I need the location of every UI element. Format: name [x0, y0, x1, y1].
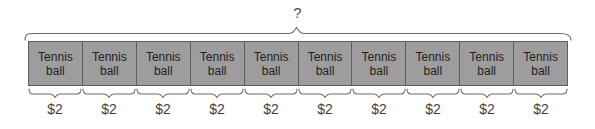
- unit-brace: [83, 89, 135, 98]
- tape-cell: Tennis ball: [137, 42, 191, 85]
- unit-value-label: $2: [190, 100, 244, 120]
- tape-cell-label-line1: Tennis: [415, 50, 450, 64]
- unit-brace: [299, 89, 351, 98]
- tape-cell-label-line1: Tennis: [38, 50, 73, 64]
- unit-brace: [245, 89, 297, 98]
- total-unknown-label: ?: [0, 4, 595, 22]
- unit-brace: [353, 89, 405, 98]
- unit-brace: [407, 89, 459, 98]
- unit-brace: [137, 89, 189, 98]
- unit-value-label: $2: [136, 100, 190, 120]
- unit-brace: [515, 89, 567, 98]
- tape-cell: Tennis ball: [514, 42, 567, 85]
- unit-value-label: $2: [244, 100, 298, 120]
- unit-brace: [191, 89, 243, 98]
- unit-value-label: $2: [460, 100, 514, 120]
- tape-cell: Tennis ball: [352, 42, 406, 85]
- tape-cell: Tennis ball: [299, 42, 353, 85]
- tape-cell: Tennis ball: [245, 42, 299, 85]
- tape-cell-label-line2: ball: [154, 64, 173, 78]
- tape-cell-label-line1: Tennis: [308, 50, 343, 64]
- unit-value-label: $2: [298, 100, 352, 120]
- tape-cell-label-line1: Tennis: [92, 50, 127, 64]
- top-brace: [25, 28, 571, 41]
- tape-cell-label-line2: ball: [46, 64, 65, 78]
- tape-cell-label-line2: ball: [477, 64, 496, 78]
- tape-cell-label-line1: Tennis: [523, 50, 558, 64]
- unit-value-label: $2: [514, 100, 568, 120]
- unit-value-label: $2: [352, 100, 406, 120]
- unit-value-label: $2: [82, 100, 136, 120]
- tape-cell: Tennis ball: [406, 42, 460, 85]
- unit-brace: [461, 89, 513, 98]
- tape-cell-label-line2: ball: [208, 64, 227, 78]
- tape-cell-label-line1: Tennis: [146, 50, 181, 64]
- tape-cell: Tennis ball: [29, 42, 83, 85]
- tape-cell-label-line2: ball: [262, 64, 281, 78]
- tape-cell: Tennis ball: [83, 42, 137, 85]
- tape-cell: Tennis ball: [191, 42, 245, 85]
- unit-value-labels: $2 $2 $2 $2 $2 $2 $2 $2 $2 $2: [28, 100, 568, 120]
- tape-cell: Tennis ball: [460, 42, 514, 85]
- tape-diagram: ? Tennis ball Tennis ball: [0, 0, 595, 129]
- tape-bar: Tennis ball Tennis ball Tennis ball Tenn…: [28, 41, 568, 86]
- tape-cell-label-line1: Tennis: [362, 50, 397, 64]
- tape-cell-label-line2: ball: [423, 64, 442, 78]
- tape-cell-label-line1: Tennis: [200, 50, 235, 64]
- tape-cell-label-line1: Tennis: [254, 50, 289, 64]
- unit-value-label: $2: [28, 100, 82, 120]
- unit-value-label: $2: [406, 100, 460, 120]
- unit-brace: [29, 89, 81, 98]
- tape-cell-label-line2: ball: [100, 64, 119, 78]
- tape-cell-label-line2: ball: [370, 64, 389, 78]
- tape-cell-label-line2: ball: [531, 64, 550, 78]
- tape-cell-label-line1: Tennis: [469, 50, 504, 64]
- tape-cell-label-line2: ball: [316, 64, 335, 78]
